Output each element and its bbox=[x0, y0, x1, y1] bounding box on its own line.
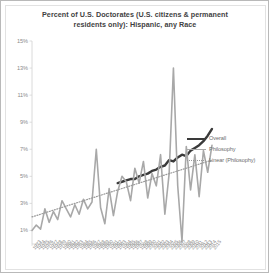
y-axis-tick-label: 9% bbox=[8, 119, 28, 125]
legend-swatch-philosophy-icon bbox=[187, 146, 206, 152]
y-axis-tick-label: 3% bbox=[8, 200, 28, 206]
y-axis-tick-label: 11% bbox=[8, 92, 28, 98]
y-axis-tick-label: 5% bbox=[8, 173, 28, 179]
legend-label-philosophy: Philosophy bbox=[209, 146, 235, 152]
chart-legend: Overall Philosophy Linear (Philosophy) bbox=[187, 132, 267, 165]
legend-swatch-linear-icon bbox=[187, 157, 206, 163]
y-axis-tick-label: 15% bbox=[8, 38, 28, 44]
legend-item-linear-philosophy[interactable]: Linear (Philosophy) bbox=[187, 154, 267, 165]
y-axis-tick-label: 13% bbox=[8, 65, 28, 71]
axes bbox=[30, 41, 213, 246]
legend-label-overall: Overall bbox=[209, 135, 226, 141]
y-axis-tick-label: 1% bbox=[8, 227, 28, 233]
legend-label-linear-philosophy: Linear (Philosophy) bbox=[209, 157, 255, 163]
chart-frame: Percent of U.S. Doctorates (U.S. citizen… bbox=[0, 0, 269, 273]
legend-item-philosophy[interactable]: Philosophy bbox=[187, 143, 267, 154]
legend-item-overall[interactable]: Overall bbox=[187, 132, 267, 143]
series-lines bbox=[32, 68, 212, 241]
legend-swatch-overall-icon bbox=[187, 135, 206, 141]
y-axis-tick-label: 7% bbox=[8, 146, 28, 152]
